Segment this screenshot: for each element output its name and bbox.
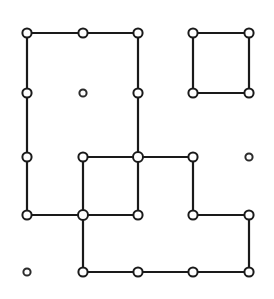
graph-node-isolated bbox=[23, 268, 30, 275]
graph-node bbox=[188, 28, 197, 37]
graph-node bbox=[22, 210, 31, 219]
graph-node bbox=[133, 88, 142, 97]
graph-node bbox=[244, 28, 253, 37]
graph-node bbox=[22, 28, 31, 37]
graph-node-junction bbox=[133, 152, 143, 162]
graph-node bbox=[188, 152, 197, 161]
graph-node bbox=[78, 152, 87, 161]
graph-node-junction bbox=[78, 210, 88, 220]
graph-node bbox=[244, 210, 253, 219]
graph-node-isolated bbox=[245, 153, 252, 160]
graph-node bbox=[22, 152, 31, 161]
graph-node bbox=[188, 210, 197, 219]
graph-node-isolated bbox=[79, 89, 86, 96]
graph-node bbox=[244, 267, 253, 276]
grid-diagram-canvas bbox=[0, 0, 274, 299]
graph-node bbox=[133, 28, 142, 37]
lattice-graph-svg bbox=[0, 0, 274, 299]
graph-node bbox=[78, 28, 87, 37]
graph-node bbox=[22, 88, 31, 97]
graph-node bbox=[78, 267, 87, 276]
graph-node bbox=[188, 88, 197, 97]
graph-node bbox=[133, 210, 142, 219]
graph-node bbox=[244, 88, 253, 97]
graph-node bbox=[188, 267, 197, 276]
graph-node bbox=[133, 267, 142, 276]
